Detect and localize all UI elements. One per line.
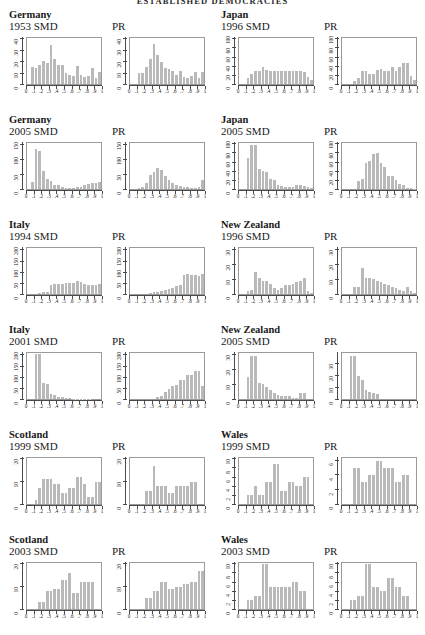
x-tick-label: .7 (180, 403, 184, 409)
x-tick-label: 1 (313, 193, 316, 199)
x-tick-label: .4 (369, 508, 373, 514)
x-tick-label: .5 (165, 508, 169, 514)
y-tick (232, 495, 236, 496)
panel-row: Italy2001 SMDPR0501001502000.1.2.3.4.5.6… (0, 324, 425, 429)
x-tick-label: 1 (416, 508, 419, 514)
x-tick-label: .3 (362, 613, 366, 619)
x-tick-label: 1 (101, 88, 104, 94)
y-tick-label: 20 (225, 180, 231, 185)
y-tick-label: 100 (13, 157, 19, 165)
x-tick-label: .9 (407, 88, 411, 94)
y-tick (232, 399, 236, 400)
y-tick (335, 609, 339, 610)
x-tick-label: .4 (54, 193, 58, 199)
x-tick-label: .6 (173, 613, 177, 619)
x-tick-label: .7 (289, 508, 293, 514)
y-tick-label: 100 (13, 270, 19, 278)
y-tick (335, 572, 339, 573)
y-tick (123, 504, 127, 505)
x-tick-label: .1 (244, 613, 248, 619)
bar-series (342, 248, 416, 294)
x-tick-label: .4 (266, 508, 270, 514)
y-tick (232, 66, 236, 67)
x-tick-label: .6 (173, 193, 177, 199)
y-tick (123, 61, 127, 62)
y-tick-label: 150 (13, 142, 19, 150)
x-tick-label: .9 (92, 508, 96, 514)
x-tick-label: .2 (251, 613, 255, 619)
x-tick-label: .1 (347, 298, 351, 304)
y-tick-label: 40 (328, 171, 334, 176)
bar-series (130, 353, 204, 399)
y-tick (335, 38, 339, 39)
x-axis-labels: 0.1.2.3.4.5.6.7.8.91 (26, 193, 102, 201)
x-tick-label: .7 (289, 403, 293, 409)
histogram-italy-1994-smd: 0501001502000.1.2.3.4.5.6.7.8.91 (9, 243, 104, 313)
country-block-japan-2005: Japan2005 SMDPR0204060801000.1.2.3.4.5.6… (212, 114, 425, 219)
y-tick (20, 563, 24, 564)
panel-title-smd: 1996 SMD (221, 20, 316, 33)
y-tick (123, 73, 127, 74)
y-tick (335, 600, 339, 601)
x-tick-label: 0 (340, 193, 343, 199)
x-tick-label: .1 (32, 403, 36, 409)
y-axis-labels: 020406080100 (221, 142, 231, 190)
y-tick (335, 249, 339, 250)
x-tick-label: .4 (266, 613, 270, 619)
y-tick (20, 189, 24, 190)
bar-series (342, 38, 416, 84)
y-axis-labels: 01020 (9, 457, 19, 505)
y-tick (20, 586, 24, 587)
x-tick-label: .5 (377, 193, 381, 199)
histogram-bar (413, 293, 416, 294)
x-tick-label: .2 (142, 508, 146, 514)
x-tick-label: .5 (377, 403, 381, 409)
x-tick-label: .3 (362, 298, 366, 304)
y-tick (123, 261, 127, 262)
y-tick (335, 75, 339, 76)
panel-title-smd: 2005 SMD (221, 125, 316, 138)
x-tick-label: .8 (85, 88, 89, 94)
y-tick-label: 60 (225, 57, 231, 62)
y-tick-label: 6 (328, 585, 334, 588)
y-tick (123, 144, 127, 145)
x-tick-label: .2 (142, 298, 146, 304)
x-tick-label: .9 (92, 613, 96, 619)
y-axis-labels: 050100150 (112, 142, 122, 190)
x-tick-label: .6 (385, 298, 389, 304)
histogram-scotland-2003-pr: 010200.1.2.3.4.5.6.7.8.91 (112, 558, 207, 628)
y-tick-label: 10 (116, 482, 122, 487)
x-tick-label: .1 (347, 613, 351, 619)
y-tick-label: 80 (328, 153, 334, 158)
x-axis-labels: 0.1.2.3.4.5.6.7.8.91 (341, 193, 417, 201)
x-tick-label: 0 (340, 403, 343, 409)
y-tick-label: 80 (328, 48, 334, 53)
country-block-scotland-1999: Scotland1999 SMDPR010200.1.2.3.4.5.6.7.8… (0, 429, 212, 534)
y-tick (232, 75, 236, 76)
x-tick-label: .6 (70, 613, 74, 619)
y-tick-label: 0 (13, 507, 19, 510)
x-axis-labels: 0.1.2.3.4.5.6.7.8.91 (341, 403, 417, 411)
y-tick (232, 47, 236, 48)
y-tick (20, 84, 24, 85)
y-tick-label: 30 (225, 250, 231, 255)
x-tick-label: .3 (47, 403, 51, 409)
country-name: New Zealand (212, 219, 425, 230)
plot-area (26, 352, 102, 400)
x-tick-label: .4 (157, 403, 161, 409)
y-tick (232, 84, 236, 85)
y-tick-label: 8 (225, 576, 231, 579)
plot-area (238, 247, 314, 295)
y-tick-label: 0 (116, 507, 122, 510)
x-tick-label: .9 (407, 508, 411, 514)
histogram-wales-1999-pr: 02460.1.2.3.4.5.6.7.8.91 (324, 453, 419, 523)
y-tick (232, 504, 236, 505)
x-tick-label: .5 (274, 508, 278, 514)
y-tick-label: 0 (116, 402, 122, 405)
bar-series (27, 248, 101, 294)
x-axis-labels: 0.1.2.3.4.5.6.7.8.91 (341, 88, 417, 96)
plot-area (341, 142, 417, 190)
panel-titles: 1996 SMDPR (212, 230, 425, 243)
x-tick-label: .2 (142, 403, 146, 409)
histogram-new-zealand-1996-pr: 01020300.1.2.3.4.5.6.7.8.91 (324, 243, 419, 313)
